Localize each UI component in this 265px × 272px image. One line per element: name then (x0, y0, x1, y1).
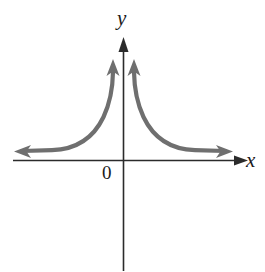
origin-label: 0 (102, 163, 112, 182)
x-axis-label: x (246, 150, 255, 171)
function-graph-figure: y x 0 (0, 0, 265, 272)
curve-left-branch (22, 72, 113, 151)
curve-right-branch (134, 72, 225, 151)
graph-canvas (0, 0, 265, 272)
y-axis-label: y (117, 8, 126, 29)
y-axis-arrowhead-icon (119, 37, 129, 52)
